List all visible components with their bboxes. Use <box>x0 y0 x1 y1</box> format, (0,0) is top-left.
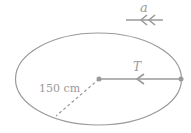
tension-vector <box>99 74 181 84</box>
mass-point <box>179 77 184 82</box>
acceleration-label: a <box>140 0 148 15</box>
radius-label: 150 cm <box>39 82 80 95</box>
diagram-canvas <box>0 0 191 133</box>
tension-label: T <box>133 60 141 74</box>
acceleration-arrow <box>126 15 163 25</box>
